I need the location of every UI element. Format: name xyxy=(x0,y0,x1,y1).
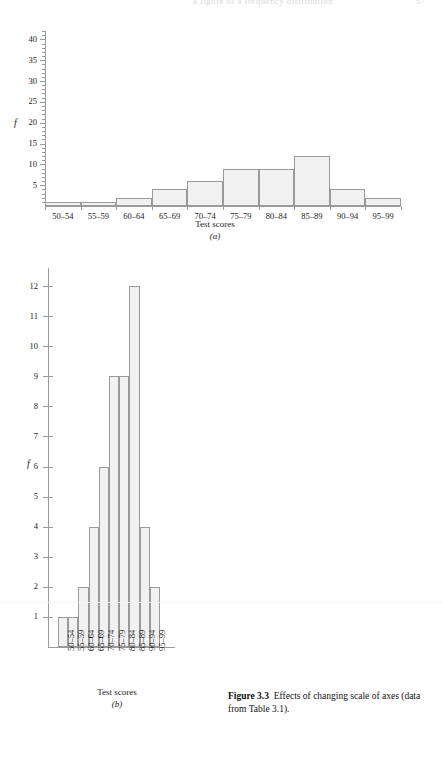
y-tick-label-a: 10 xyxy=(13,160,37,169)
histogram-bar-a xyxy=(81,202,117,206)
y-tick-label-a: 40 xyxy=(13,35,37,44)
x-tick-label-b: 55–59 xyxy=(77,630,86,651)
x-tick-a xyxy=(365,207,366,210)
x-tick-a xyxy=(223,207,224,210)
y-tick-label-b: 10 xyxy=(14,342,38,351)
y-tick-b xyxy=(43,346,53,347)
x-tick-label-a: 95–99 xyxy=(365,212,401,221)
x-tick-a xyxy=(401,207,402,210)
x-tick-label-b: 50–54 xyxy=(67,630,76,651)
y-tick-minor-a xyxy=(42,194,45,195)
y-tick-major-a xyxy=(40,123,45,124)
y-tick-minor-a xyxy=(42,152,45,153)
y-tick-major-a xyxy=(40,144,45,145)
x-tick-label-b: 65–69 xyxy=(97,630,106,651)
figure-caption: Figure 3.3 Effects of changing scale of … xyxy=(228,690,434,715)
y-tick-label-b: 2 xyxy=(14,582,38,591)
y-tick-label-b: 7 xyxy=(14,432,38,441)
y-tick-major-a xyxy=(40,185,45,186)
figure-caption-label: Figure 3.3 xyxy=(228,691,269,701)
x-tick-label-a: 60–64 xyxy=(116,212,152,221)
x-tick-label-b: 95–99 xyxy=(158,630,167,651)
x-tick-label-a: 85–89 xyxy=(294,212,330,221)
histogram-bar-a xyxy=(330,189,366,206)
y-tick-minor-a xyxy=(42,173,45,174)
histogram-bar-b xyxy=(119,376,129,647)
y-tick-major-a xyxy=(40,39,45,40)
x-tick-label-b: 85–89 xyxy=(138,630,147,651)
x-tick-a xyxy=(116,207,117,210)
y-tick-major-a xyxy=(40,60,45,61)
y-axis-title-a: f xyxy=(14,117,17,128)
y-tick-label-b: 12 xyxy=(14,282,38,291)
y-tick-b xyxy=(43,527,53,528)
y-tick-minor-a xyxy=(42,77,45,78)
y-axis-line-a xyxy=(45,31,46,206)
y-tick-label-b: 6 xyxy=(14,462,38,471)
y-tick-label-b: 9 xyxy=(14,372,38,381)
y-tick-minor-a xyxy=(42,73,45,74)
y-tick-minor-a xyxy=(42,189,45,190)
y-tick-minor-a xyxy=(42,181,45,182)
x-tick-label-a: 55–59 xyxy=(81,212,117,221)
y-tick-minor-a xyxy=(42,35,45,36)
x-tick-a xyxy=(45,207,46,210)
histogram-bar-a xyxy=(116,198,152,206)
y-tick-label-b: 8 xyxy=(14,402,38,411)
y-tick-minor-a xyxy=(42,148,45,149)
y-tick-minor-a xyxy=(42,31,45,32)
y-tick-b xyxy=(43,316,53,317)
y-tick-minor-a xyxy=(42,156,45,157)
y-tick-label-a: 35 xyxy=(13,56,37,65)
histogram-bar-b xyxy=(109,376,119,647)
plot-area-b: 12345678910111250–5455–5960–6465–6970–74… xyxy=(0,255,220,715)
y-tick-b xyxy=(43,497,53,498)
histogram-bar-a xyxy=(294,156,330,206)
y-tick-label-b: 5 xyxy=(14,492,38,501)
histogram-panel-b: 12345678910111250–5455–5960–6465–6970–74… xyxy=(0,255,442,715)
y-tick-b xyxy=(43,587,53,588)
histogram-bar-a xyxy=(45,202,81,206)
y-tick-b xyxy=(43,406,53,407)
plot-area-a: 51015202530354050–5455–5960–6465–6970–74… xyxy=(0,0,442,250)
x-axis-title-a: Test scores xyxy=(150,219,280,229)
x-tick-a xyxy=(294,207,295,210)
y-tick-minor-a xyxy=(42,160,45,161)
histogram-bar-b xyxy=(129,286,139,647)
histogram-bar-a xyxy=(187,181,223,206)
y-tick-minor-a xyxy=(42,64,45,65)
y-tick-minor-a xyxy=(42,119,45,120)
y-tick-b xyxy=(43,557,53,558)
x-tick-label-b: 70–74 xyxy=(107,630,116,651)
y-tick-major-a xyxy=(40,102,45,103)
y-tick-label-a: 15 xyxy=(13,139,37,148)
x-axis-title-b: Test scores xyxy=(52,687,182,697)
histogram-bar-a xyxy=(152,189,188,206)
x-tick-label-a: 90–94 xyxy=(330,212,366,221)
y-tick-label-a: 25 xyxy=(13,97,37,106)
y-tick-minor-a xyxy=(42,69,45,70)
panel-label-b: (b) xyxy=(52,699,182,709)
y-axis-line-b xyxy=(48,268,49,647)
y-axis-title-b: f xyxy=(27,458,30,469)
x-tick-label-b: 60–64 xyxy=(87,630,96,651)
histogram-bar-a xyxy=(223,169,259,207)
y-tick-minor-a xyxy=(42,106,45,107)
x-tick-a xyxy=(81,207,82,210)
x-tick-label-b: 80–84 xyxy=(128,630,137,651)
y-tick-minor-a xyxy=(42,48,45,49)
y-tick-minor-a xyxy=(42,139,45,140)
y-tick-minor-a xyxy=(42,169,45,170)
histogram-bar-b xyxy=(99,467,109,647)
y-tick-label-b: 1 xyxy=(14,612,38,621)
y-tick-minor-a xyxy=(42,127,45,128)
panel-label-a: (a) xyxy=(150,231,280,241)
y-tick-minor-a xyxy=(42,44,45,45)
x-tick-a xyxy=(259,207,260,210)
y-tick-b xyxy=(43,467,53,468)
y-tick-minor-a xyxy=(42,131,45,132)
x-tick-label-b: 75–79 xyxy=(118,630,127,651)
y-tick-label-a: 5 xyxy=(13,181,37,190)
y-tick-minor-a xyxy=(42,135,45,136)
y-tick-minor-a xyxy=(42,110,45,111)
